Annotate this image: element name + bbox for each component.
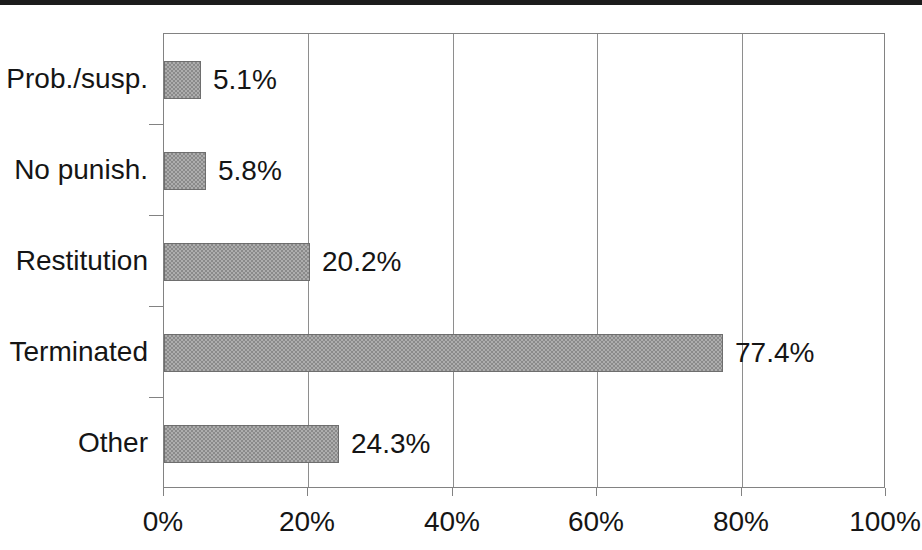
bar-other [164,425,339,463]
category-label: Restitution [0,215,148,306]
value-label: 20.2% [322,243,401,281]
x-axis-label: 40% [424,506,480,538]
y-axis-tick [149,397,163,398]
x-axis-tick [741,488,742,496]
category-label: Terminated [0,306,148,397]
x-axis-label: 60% [568,506,624,538]
gridline-60 [597,34,598,487]
y-axis-tick [149,215,163,216]
x-axis-tick [452,488,453,496]
value-label: 77.4% [735,334,814,372]
x-axis-label: 20% [279,506,335,538]
plot-area: 5.1%5.8%20.2%77.4%24.3% [163,33,885,488]
bar-prob-susp [164,61,201,99]
category-label: Prob./susp. [0,33,148,124]
bar-terminated [164,334,723,372]
y-axis-tick [149,306,163,307]
chart-page: 5.1%5.8%20.2%77.4%24.3% Prob./susp.No pu… [0,0,922,550]
y-axis-tick [149,124,163,125]
gridline-40 [453,34,454,487]
category-label: Other [0,397,148,488]
bar-no-punish [164,152,206,190]
category-label: No punish. [0,124,148,215]
x-axis-label: 100% [849,506,921,538]
x-axis-tick [885,488,886,496]
x-axis-tick [596,488,597,496]
bar-restitution [164,243,310,281]
value-label: 5.8% [218,152,282,190]
x-axis-label: 0% [143,506,183,538]
x-axis-label: 80% [713,506,769,538]
x-axis-tick [163,488,164,496]
value-label: 24.3% [351,425,430,463]
gridline-80 [742,34,743,487]
value-label: 5.1% [213,61,277,99]
top-rule [0,0,922,5]
x-axis-tick [307,488,308,496]
